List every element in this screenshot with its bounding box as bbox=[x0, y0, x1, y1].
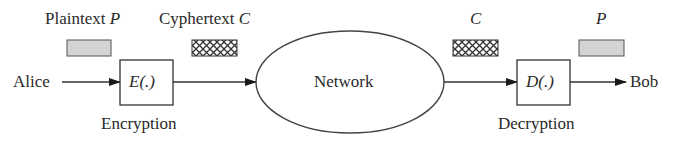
cyphertext-label-text: Cyphertext bbox=[159, 9, 235, 28]
cyphertext-symbol: C bbox=[239, 9, 250, 28]
cyphertext-block bbox=[192, 40, 237, 56]
network-cyphertext-block bbox=[453, 40, 498, 56]
plaintext-block bbox=[67, 40, 111, 56]
plaintext-label: Plaintext P bbox=[45, 9, 120, 29]
decryption-caption: Decryption bbox=[498, 114, 574, 134]
plaintext-label-text: Plaintext bbox=[45, 9, 105, 28]
sender-alice: Alice bbox=[13, 72, 50, 92]
encryption-caption: Encryption bbox=[101, 114, 177, 134]
receiver-bob: Bob bbox=[630, 72, 658, 92]
encrypt-function-label: E(.) bbox=[129, 72, 155, 92]
cyphertext-label: Cyphertext C bbox=[159, 9, 250, 29]
bob-plaintext-block bbox=[579, 40, 624, 56]
network-label: Network bbox=[314, 72, 373, 92]
plaintext-symbol: P bbox=[110, 9, 120, 28]
network-cyphertext-label: C bbox=[470, 9, 481, 29]
decrypt-function-label: D(.) bbox=[526, 72, 554, 92]
bob-plaintext-label: P bbox=[596, 9, 606, 29]
